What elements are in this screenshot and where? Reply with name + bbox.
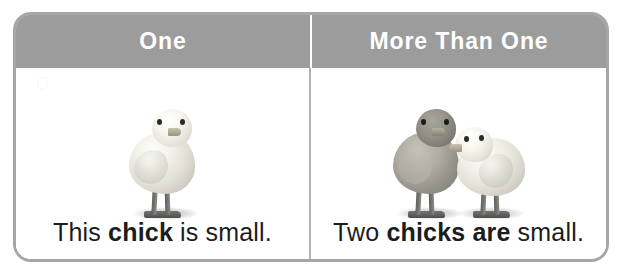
- chick-eye-right: [180, 119, 185, 125]
- worksheet-root: One More Than One: [0, 0, 622, 274]
- caption-more-word-1: Two: [333, 218, 379, 246]
- chick-illustration-dark: [391, 102, 461, 220]
- chick-beak: [449, 144, 462, 152]
- table-cell-one: Thischickissmall.: [16, 68, 311, 259]
- caption-one-word-1: This: [53, 218, 101, 246]
- chick-beak: [168, 128, 181, 136]
- caption-one-word-3: is: [180, 218, 198, 246]
- picture-stage-one: [16, 85, 309, 220]
- picture-stage-more-than-one: [311, 85, 606, 220]
- chick-photo-pair: [391, 92, 527, 220]
- chick-wing: [134, 150, 168, 184]
- comparison-table: One More Than One: [13, 12, 609, 262]
- column-header-one-label: One: [139, 28, 186, 55]
- chick-illustration-pale: [453, 116, 527, 220]
- chick-eye-right: [479, 135, 484, 141]
- chick-beak: [432, 128, 445, 136]
- caption-more-word-3: are: [472, 218, 510, 246]
- column-header-more-than-one-label: More Than One: [369, 28, 548, 55]
- caption-one: Thischickissmall.: [53, 220, 272, 245]
- column-header-one: One: [16, 15, 312, 68]
- chick-eye-left: [421, 119, 426, 125]
- caption-more-word-2: chicks: [386, 218, 465, 246]
- chick-eye-right: [444, 119, 449, 125]
- caption-more-than-one: Twochicksaresmall.: [333, 220, 584, 245]
- table-cell-more-than-one: Twochicksaresmall.: [311, 68, 606, 259]
- table-header-row: One More Than One: [16, 15, 606, 68]
- chick-eye-left: [157, 119, 162, 125]
- column-header-more-than-one: More Than One: [312, 15, 606, 68]
- caption-one-word-4: small.: [205, 218, 271, 246]
- chick-illustration: [127, 100, 199, 220]
- table-body-row: Thischickissmall.: [16, 68, 606, 259]
- chick-wing: [398, 150, 432, 184]
- caption-more-word-4: small.: [518, 218, 584, 246]
- caption-one-word-2: chick: [108, 218, 173, 246]
- chick-eye-left: [464, 136, 469, 142]
- chick-photo-single: [127, 92, 199, 220]
